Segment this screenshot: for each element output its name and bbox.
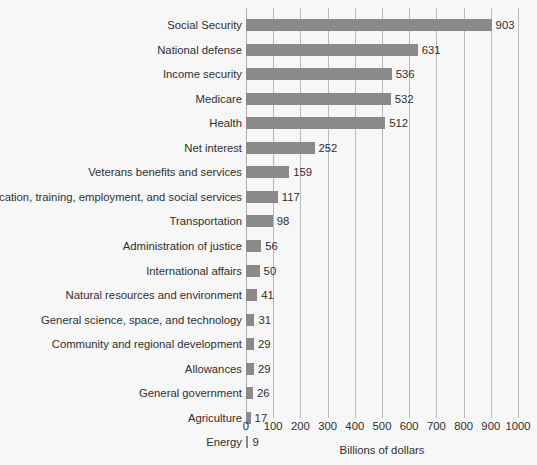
x-tick-label-100: 100 [264,420,283,432]
x-tick-label-900: 900 [481,420,500,432]
x-axis-title: Billions of dollars [246,444,518,456]
x-axis: Billions of dollars 01002003004005006007… [0,0,537,465]
x-tick-label-400: 400 [345,420,364,432]
bar-chart: Social Security903National defense631Inc… [0,0,537,465]
x-tick-label-300: 300 [318,420,337,432]
x-tick-label-500: 500 [373,420,392,432]
x-tick-label-700: 700 [427,420,446,432]
x-tick-label-1000: 1000 [505,420,530,432]
x-tick-label-200: 200 [291,420,310,432]
x-tick-label-0: 0 [243,420,249,432]
x-tick-label-800: 800 [454,420,473,432]
x-tick-label-600: 600 [400,420,419,432]
